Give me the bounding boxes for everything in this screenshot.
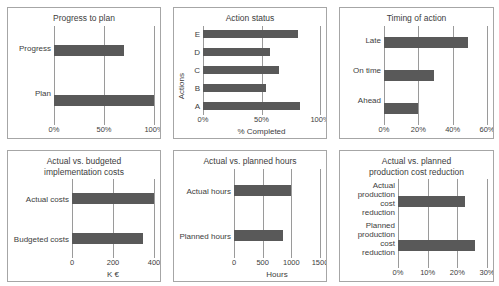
bar [203, 48, 270, 56]
gridline [487, 26, 488, 126]
category-label: Actual hours [187, 169, 234, 214]
category-label: Actual production cost reduction [342, 179, 398, 219]
x-tick-label: 200 [107, 258, 120, 267]
chart-panel: Progress to planProgressPlan0%50%100% [7, 7, 161, 139]
gridline [154, 26, 155, 126]
x-axis-label: % Completed [203, 126, 320, 136]
category-label: D [194, 44, 203, 62]
plot-area: LateOn timeAhead0%20%40%60% [340, 26, 493, 139]
bar-row [398, 224, 487, 269]
bar-row [203, 61, 320, 79]
bar-row [384, 26, 487, 59]
chart-title: Timing of action [340, 8, 493, 26]
bars-zone [384, 26, 487, 126]
category-label: On time [353, 56, 384, 86]
x-tick-label: 100% [144, 125, 161, 134]
category-label: Actual costs [26, 179, 72, 219]
bar-row [384, 92, 487, 125]
x-axis-label: K € [72, 269, 154, 279]
bar-row [72, 219, 154, 259]
axes-area: 0%50%100% [54, 26, 154, 137]
chart-panel: Actual vs. planned hoursActual hoursPlan… [173, 150, 327, 282]
bar-row [54, 26, 154, 76]
bar [234, 185, 291, 196]
bar-row [398, 179, 487, 224]
bar [384, 37, 468, 48]
bar-row [72, 179, 154, 219]
category-label: B [195, 80, 203, 98]
bar [398, 240, 475, 251]
bar-row [203, 43, 320, 61]
x-tick-label: 100% [310, 115, 327, 124]
bars-zone [54, 26, 154, 126]
bar-row [234, 169, 320, 214]
x-axis-ticks: 0%20%40%60% [384, 125, 487, 136]
x-tick-label: 0% [379, 125, 390, 134]
category-labels: Actual hoursPlanned hours [176, 169, 234, 280]
x-axis-ticks: 0%50%100% [54, 125, 154, 136]
gridline [487, 179, 488, 268]
category-label: Planned hours [179, 214, 234, 259]
bars-zone [72, 179, 154, 258]
plot-area: ProgressPlan0%50%100% [8, 26, 160, 139]
bars-zone [234, 169, 320, 259]
chart-title: Actual vs. planned production cost reduc… [340, 151, 493, 179]
x-axis-ticks: 050010001500 [234, 258, 320, 269]
chart-title: Actual vs. planned hours [174, 151, 326, 169]
bar [384, 70, 434, 81]
gridline [320, 26, 321, 116]
bar [203, 84, 266, 92]
x-tick-label: 60% [479, 125, 494, 134]
bar [234, 230, 283, 241]
x-axis-label: Hours [234, 269, 320, 279]
chart-title: Action status [174, 8, 326, 26]
x-tick-label: 0% [198, 115, 209, 124]
chart-panel: Action statusActionsEDCBA0%50%100%% Comp… [173, 7, 327, 139]
x-tick-label: 50% [96, 125, 111, 134]
x-tick-label: 1000 [283, 258, 300, 267]
bar-row [203, 97, 320, 115]
bar [54, 45, 124, 56]
bar [203, 30, 298, 38]
bar-row [234, 213, 320, 258]
x-tick-label: 20% [450, 268, 465, 277]
bar [72, 193, 154, 204]
x-tick-label: 30% [479, 268, 494, 277]
x-tick-label: 0 [70, 258, 74, 267]
x-tick-label: 400 [148, 258, 161, 267]
x-axis-ticks: 0%10%20%30% [398, 268, 487, 279]
x-tick-label: 50% [254, 115, 269, 124]
bars-zone [398, 179, 487, 268]
category-label: Budgeted costs [14, 219, 72, 259]
bar-row [203, 79, 320, 97]
gridline [154, 179, 155, 258]
plot-area: Actual production cost reductionPlanned … [340, 179, 493, 281]
category-label: Plan [35, 71, 54, 116]
x-tick-label: 1500 [312, 258, 327, 267]
x-tick-label: 20% [411, 125, 426, 134]
x-tick-label: 0% [49, 125, 60, 134]
chart-panel: Actual vs. budgeted implementation costs… [7, 150, 161, 282]
bar [54, 95, 154, 106]
axes-area: 0%50%100%% Completed [203, 26, 320, 137]
chart-dashboard: Progress to planProgressPlan0%50%100%Act… [0, 0, 499, 286]
bar [384, 103, 418, 114]
chart-panel: Actual vs. planned production cost reduc… [339, 150, 494, 282]
category-label: Late [365, 26, 384, 56]
category-labels: LateOn timeAhead [342, 26, 384, 137]
plot-area: ActionsEDCBA0%50%100%% Completed [174, 26, 326, 139]
x-tick-label: 0 [232, 258, 236, 267]
category-labels: Actual production cost reductionPlanned … [342, 179, 398, 279]
category-label: Ahead [358, 86, 384, 116]
x-tick-label: 10% [420, 268, 435, 277]
category-labels: Actual costsBudgeted costs [10, 179, 72, 279]
bar [203, 102, 300, 110]
axes-area: 0200400K € [72, 179, 154, 279]
gridline [320, 169, 321, 259]
chart-panel: Timing of actionLateOn timeAhead0%20%40%… [339, 7, 494, 139]
axes-area: 050010001500Hours [234, 169, 320, 280]
axes-area: 0%10%20%30% [398, 179, 487, 279]
bar [398, 196, 465, 207]
x-tick-label: 40% [445, 125, 460, 134]
bars-zone [203, 26, 320, 116]
